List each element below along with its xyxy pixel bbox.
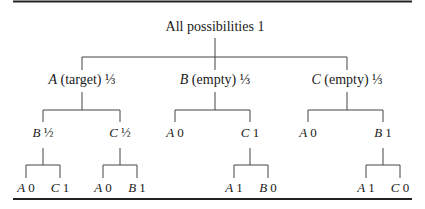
root-node: All possibilities 1: [166, 19, 265, 35]
node-c-a: A 0: [299, 125, 317, 141]
node-prob: ⅓: [105, 72, 116, 87]
node-desc: (target): [61, 72, 102, 87]
node-var: C: [391, 180, 400, 195]
node-var: B: [33, 125, 41, 140]
node-prob: 0: [270, 180, 277, 195]
node-prob: 1: [368, 180, 375, 195]
node-prob: 0: [28, 180, 35, 195]
node-var: A: [17, 180, 25, 195]
node-prob: ⅓: [372, 72, 383, 87]
root-prob: 1: [257, 19, 264, 34]
node-var: A: [225, 180, 233, 195]
node-prob: ½: [44, 125, 54, 140]
leaf: C 1: [51, 180, 69, 196]
leaf: A 1: [357, 180, 375, 196]
leaf: A 0: [94, 180, 112, 196]
node-prob: 0: [310, 125, 317, 140]
node-var: A: [48, 72, 57, 87]
node-var: A: [299, 125, 307, 140]
node-c-b: B 1: [374, 125, 392, 141]
node-prob: ⅓: [240, 72, 251, 87]
node-prob: 0: [403, 180, 410, 195]
leaf: C 0: [391, 180, 409, 196]
node-prob: 0: [105, 180, 112, 195]
node-prob: 1: [236, 180, 243, 195]
node-prob: 1: [63, 180, 70, 195]
node-var: C: [311, 72, 320, 87]
node-prob: 1: [139, 180, 146, 195]
node-var: A: [357, 180, 365, 195]
leaf: B 0: [259, 180, 277, 196]
node-var: B: [374, 125, 382, 140]
leaf: A 1: [225, 180, 243, 196]
node-a-target: A (target) ⅓: [48, 72, 115, 88]
node-b-a: A 0: [166, 125, 184, 141]
leaf: A 0: [17, 180, 35, 196]
leaf: B 1: [128, 180, 146, 196]
node-var: B: [259, 180, 267, 195]
node-b-empty: B (empty) ⅓: [180, 72, 250, 88]
node-b-c: C 1: [241, 125, 259, 141]
node-a-c: C ½: [109, 125, 131, 141]
node-var: C: [241, 125, 250, 140]
node-var: C: [51, 180, 60, 195]
node-desc: (empty): [192, 72, 236, 87]
node-c-empty: C (empty) ⅓: [311, 72, 382, 88]
node-a-b: B ½: [33, 125, 54, 141]
node-prob: 0: [177, 125, 184, 140]
root-label: All possibilities: [166, 19, 254, 34]
node-var: B: [128, 180, 136, 195]
node-var: A: [166, 125, 174, 140]
node-prob: ½: [121, 125, 131, 140]
node-var: C: [109, 125, 118, 140]
node-var: B: [180, 72, 189, 87]
node-desc: (empty): [324, 72, 368, 87]
node-prob: 1: [253, 125, 260, 140]
node-var: A: [94, 180, 102, 195]
node-prob: 1: [385, 125, 392, 140]
